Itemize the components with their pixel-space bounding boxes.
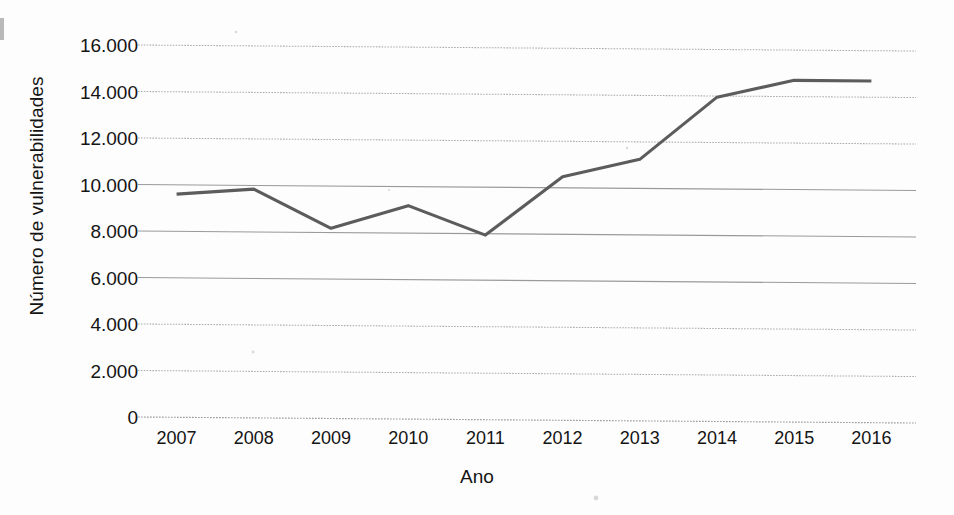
scan-speckle	[252, 351, 255, 354]
scan-speckle	[594, 496, 599, 501]
gridlines	[138, 45, 916, 423]
gridline-0	[138, 417, 916, 423]
line-chart: Número de vulnerabilidades Ano 16.00014.…	[0, 0, 954, 515]
gridline-8000	[138, 231, 916, 237]
gridline-4000	[138, 324, 916, 330]
gridline-2000	[138, 371, 916, 377]
scan-speckle	[626, 147, 628, 149]
gridline-6000	[138, 278, 916, 284]
series-line-vulnerabilidades	[177, 80, 872, 235]
scan-speckle	[235, 31, 238, 34]
gridline-12000	[138, 138, 916, 144]
scan-speckle	[388, 189, 390, 191]
plot-area	[0, 0, 954, 515]
gridline-16000	[138, 45, 916, 51]
gridline-14000	[138, 92, 916, 98]
